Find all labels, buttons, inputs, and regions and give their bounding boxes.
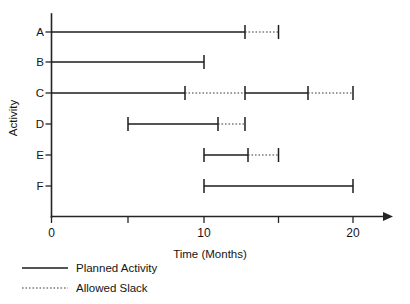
gantt-chart: A B C D E F Activity 0 10 20 Time (Month… — [0, 0, 410, 304]
legend-label-planned: Planned Activity — [76, 262, 157, 274]
y-label-a: A — [36, 26, 44, 38]
x-axis: 0 10 20 Time (Months) — [48, 212, 393, 260]
legend-label-slack: Allowed Slack — [76, 282, 148, 294]
y-label-b: B — [36, 56, 44, 68]
activity-bar-d — [128, 117, 245, 131]
y-label-d: D — [36, 118, 44, 130]
chart-legend: Planned Activity Allowed Slack — [22, 262, 157, 294]
x-label-20: 20 — [346, 226, 360, 240]
y-label-c: C — [36, 87, 44, 99]
x-label-10: 10 — [197, 226, 211, 240]
y-label-e: E — [36, 149, 44, 161]
y-axis-title: Activity — [7, 100, 19, 137]
activity-bar-c — [52, 86, 354, 100]
gantt-chart-canvas: A B C D E F Activity 0 10 20 Time (Month… — [0, 0, 410, 304]
x-axis-title: Time (Months) — [173, 248, 247, 260]
y-axis: A B C D E F Activity — [7, 14, 52, 217]
x-axis-arrow-icon — [383, 212, 393, 221]
activity-bar-a — [52, 25, 279, 39]
activity-bar-b — [52, 55, 205, 69]
activity-bar-e — [204, 148, 279, 162]
activity-bar-f — [204, 179, 353, 193]
y-label-f: F — [36, 180, 43, 192]
x-label-0: 0 — [48, 226, 55, 240]
